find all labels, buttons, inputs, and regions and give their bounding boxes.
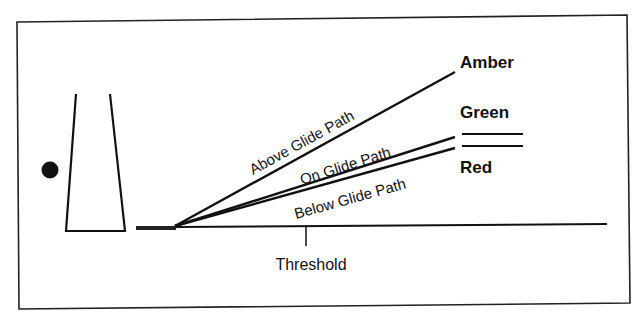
tower-icon (66, 94, 125, 231)
green-band-lines (462, 134, 523, 146)
glide-path-diagram: Threshold Above Glide Path On Glide Path… (0, 0, 644, 320)
runway-line (136, 224, 607, 228)
red-indicator-label: Red (460, 158, 492, 177)
green-indicator-label: Green (460, 103, 509, 122)
light-dot-icon (42, 162, 59, 179)
threshold-label: Threshold (275, 256, 346, 273)
amber-indicator-label: Amber (460, 53, 514, 72)
